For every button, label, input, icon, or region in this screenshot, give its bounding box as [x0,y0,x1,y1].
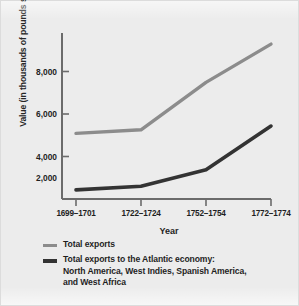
x-tick-label-4: 1772–1774 [251,209,291,218]
y-tick-label-2000: 2,000 [36,173,57,183]
x-axis-ticks [76,199,271,206]
legend-swatch-icon-total-exports [43,244,57,247]
legend-label-line-2: North America, West Indies, Spanish Amer… [63,266,246,276]
legend-label-atlantic-economy: Total exports to the Atlantic economy: N… [63,254,246,288]
legend-item-atlantic-economy: Total exports to the Atlantic economy: N… [43,254,293,288]
legend-label-line-3: and West Africa [63,277,126,287]
legend-item-total-exports: Total exports [43,239,293,250]
chart-legend: Total exports Total exports to the Atlan… [43,239,293,293]
x-tick-label-2: 1722–1724 [121,209,161,218]
legend-label-total-exports: Total exports [63,239,115,250]
series-line-total-exports [76,44,271,133]
y-tick-label-8000: 8,000 [36,67,57,77]
chart-figure: Value (in thousands of pounds sterling) … [0,0,299,306]
legend-swatch-icon-atlantic-economy [43,259,57,263]
x-tick-label-1: 1699–1701 [56,209,96,218]
x-tick-label-3: 1752–1754 [186,209,226,218]
series-line-atlantic-economy [76,126,271,190]
x-axis-title: Year [159,226,179,236]
y-tick-label-4000: 4,000 [36,152,57,162]
y-tick-label-6000: 6,000 [36,109,57,119]
y-axis-ticks [62,72,69,179]
legend-label-line-1: Total exports to the Atlantic economy: [63,254,215,264]
